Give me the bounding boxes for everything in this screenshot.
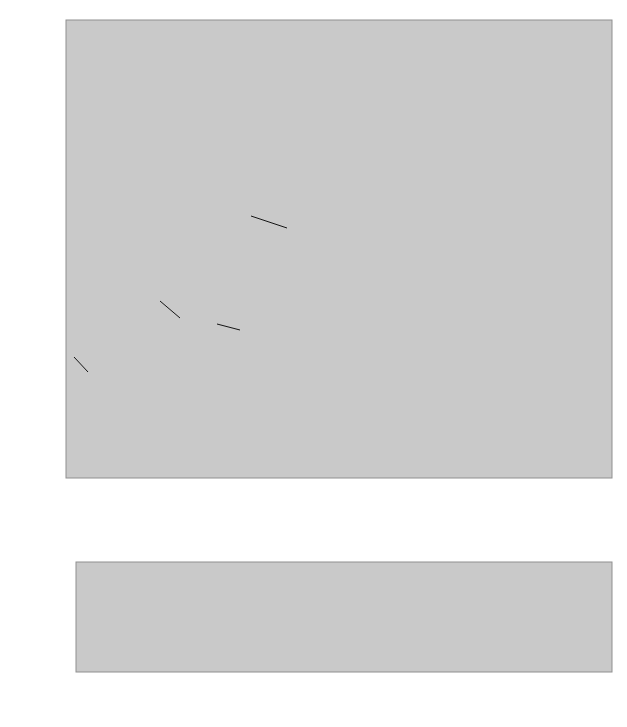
figure-canvas [0, 0, 627, 727]
panel-a-plot-background [66, 20, 612, 478]
panel-a-gdp-gap [66, 20, 612, 478]
panel-b-plot-background [76, 562, 612, 672]
panel-b-unemployment [76, 562, 612, 672]
economics-figure [0, 0, 627, 727]
